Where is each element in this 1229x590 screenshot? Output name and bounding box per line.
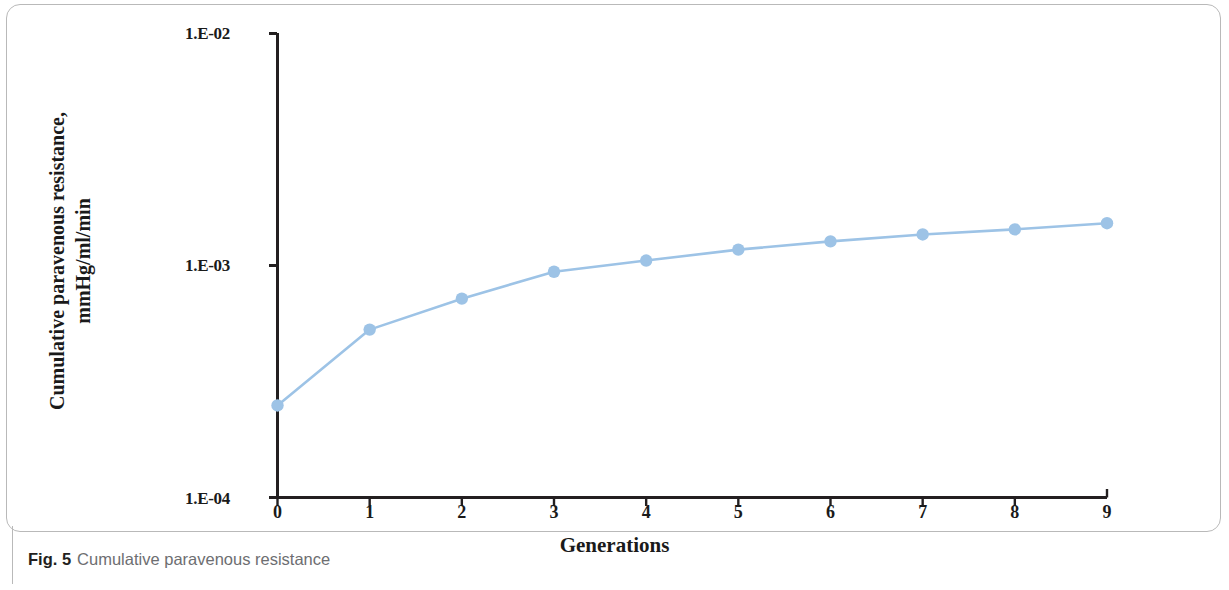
chart-plot-area: 1.E-02 1.E-03 1.E-04 0123456789 Cumulati… [0,0,1229,535]
x-tick-label-3: 3 [534,502,574,523]
x-tick-label-9: 9 [1087,502,1127,523]
x-tick-label-7: 7 [903,502,943,523]
x-tick-label-4: 4 [626,502,666,523]
data-point [1009,223,1021,235]
data-point [732,243,744,255]
y-tick-label-1e-03: 1.E-03 [140,256,230,276]
data-series-markers [271,217,1113,412]
x-tick-label-1: 1 [350,502,390,523]
data-point [271,399,283,411]
data-point [824,235,836,247]
y-axis-title-line1: Cumulative paravenous resistance, [44,11,70,511]
figure-caption-label: Fig. 5 [28,550,71,568]
y-axis-title: Cumulative paravenous resistance, mmHg/m… [44,11,96,511]
x-tick-label-8: 8 [995,502,1035,523]
figure-caption-text: Cumulative paravenous resistance [77,550,330,568]
data-point [916,228,928,240]
data-point [1101,217,1113,229]
y-axis-title-line2: mmHg/ml/min [70,11,96,511]
y-axis-ticks [269,34,277,498]
data-point [363,323,375,335]
y-tick-label-1e-04: 1.E-04 [140,489,230,509]
data-point [548,266,560,278]
y-tick-label-1e-02: 1.E-02 [140,24,230,44]
x-tick-label-2: 2 [442,502,482,523]
figure-caption: Fig. 5Cumulative paravenous resistance [6,548,1221,570]
data-point [456,292,468,304]
x-tick-label-6: 6 [811,502,851,523]
data-series-line [278,223,1108,405]
x-tick-label-5: 5 [718,502,758,523]
data-point [640,254,652,266]
x-tick-label-0: 0 [258,502,298,523]
